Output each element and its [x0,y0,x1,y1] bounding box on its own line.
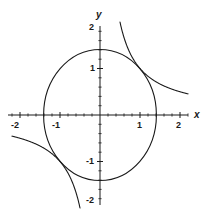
y-tick-label-pos1: 1 [90,64,95,73]
x-tick-label-pos1: 1 [137,121,142,130]
y-tick-label-pos2: 2 [89,23,94,32]
y-axis-label: y [96,10,102,20]
x-tick-label-pos2: 2 [176,121,181,130]
x-axis-label: x [194,110,200,120]
axes-group [8,26,188,205]
curve-hyperbola-branch-1 [120,22,188,94]
x-tick-label-neg1: -1 [52,121,60,130]
y-tick-label-neg2: -2 [86,196,94,205]
curve-hyperbola-branch-2 [12,136,80,208]
plot-canvas [0,0,209,216]
plot-figure: x y -2 -1 1 2 2 1 -1 -2 [0,0,209,216]
x-tick-label-neg2: -2 [11,121,19,130]
y-tick-label-neg1: -1 [86,157,94,166]
